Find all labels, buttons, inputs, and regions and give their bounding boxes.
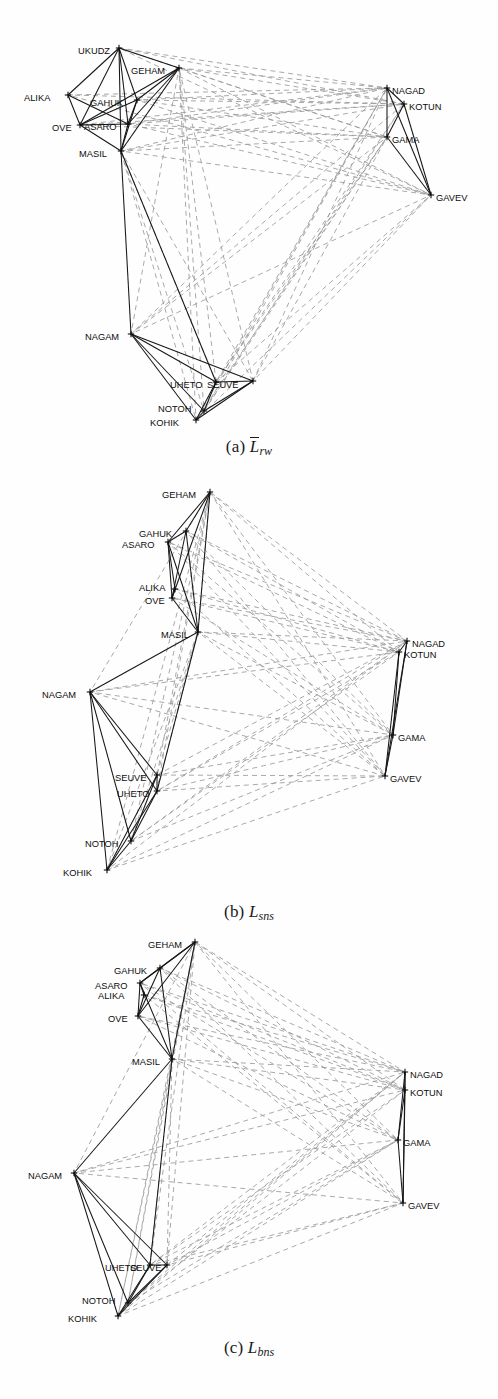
negative-edge — [210, 492, 399, 652]
positive-edge — [131, 334, 204, 411]
negative-edge — [150, 1203, 403, 1265]
node-label: NAGAD — [410, 1070, 443, 1080]
negative-edge — [172, 1059, 405, 1072]
caption-a-symbol: L — [250, 436, 260, 457]
negative-edge — [118, 1140, 398, 1316]
node-label: UHETO — [170, 380, 202, 390]
negative-edge — [74, 1090, 405, 1173]
graph-node[interactable] — [183, 528, 189, 534]
negative-edge — [253, 137, 387, 381]
negative-edge — [144, 995, 403, 1203]
negative-edge — [90, 652, 399, 692]
negative-edge — [150, 942, 195, 1265]
graph-node[interactable] — [77, 122, 83, 128]
panel-a: UKUDZGEHAMALIKAGAHUKOVEASAROMASILNAGAMUH… — [0, 0, 498, 470]
positive-edge — [157, 632, 198, 791]
negative-edge — [137, 100, 404, 104]
node-label: GAVEV — [408, 1201, 440, 1211]
node-label: OVE — [145, 596, 165, 606]
negative-edge — [157, 641, 407, 775]
graph-node[interactable] — [172, 586, 178, 592]
node-label: ALIKA — [139, 583, 166, 593]
negative-edge — [204, 104, 404, 411]
node-label: ASARO — [95, 981, 128, 991]
negative-edge — [175, 589, 385, 776]
node-label: NAGAM — [85, 332, 119, 342]
graph-node[interactable] — [154, 788, 160, 794]
negative-edge — [121, 104, 404, 151]
negative-edge — [172, 598, 399, 652]
negative-edge — [179, 68, 216, 382]
positive-edge — [121, 124, 128, 151]
negative-edge — [128, 1140, 398, 1303]
node-label: GAMA — [403, 1138, 431, 1148]
panel-b: GEHAMGAHUKASAROALIKAOVEMASILNAGAMSEUVEUH… — [0, 470, 498, 940]
node-label: ASARO — [122, 540, 155, 550]
negative-edge — [140, 983, 405, 1072]
figure-container: UKUDZGEHAMALIKAGAHUKOVEASAROMASILNAGAMUH… — [0, 0, 498, 1399]
positive-edge — [385, 641, 407, 776]
negative-edge — [167, 1072, 405, 1265]
node-label: ASARO — [84, 122, 117, 132]
positive-edge — [172, 942, 195, 1059]
negative-edge — [198, 632, 407, 641]
node-label: KOHIK — [63, 868, 93, 878]
node-label: NAGAM — [28, 1171, 62, 1181]
graph-node[interactable] — [118, 148, 124, 154]
negative-edge — [131, 735, 393, 841]
negative-edge — [150, 1140, 398, 1265]
positive-edge — [398, 1140, 403, 1203]
negative-edge — [168, 542, 393, 735]
negative-edge — [90, 692, 393, 735]
negative-edge — [107, 632, 198, 870]
negative-edge — [128, 1090, 405, 1303]
positive-edge — [168, 542, 172, 598]
caption-b-label: (b) — [224, 902, 244, 921]
panel-b-graph: GEHAMGAHUKASAROALIKAOVEMASILNAGAMSEUVEUH… — [0, 470, 498, 910]
negative-edge — [150, 1090, 405, 1265]
positive-edge — [387, 137, 431, 195]
negative-edge — [128, 124, 387, 137]
positive-edge — [168, 542, 175, 589]
positive-edge — [90, 692, 157, 775]
node-label: UHETO — [117, 789, 149, 799]
panel-c-graph: GEHAMGAHUKASAROALIKAOVEMASILNAGAMUHETOSE… — [0, 930, 498, 1340]
node-label: KOHIK — [150, 418, 180, 428]
negative-edge — [128, 124, 431, 195]
node-label: NAGAD — [412, 639, 445, 649]
negative-edge — [157, 735, 393, 775]
negative-edge — [186, 531, 407, 641]
node-label: GAHUK — [114, 966, 148, 976]
negative-edge — [131, 137, 387, 334]
node-label: KOTUN — [409, 102, 442, 112]
caption-a-subscript: rw — [259, 444, 272, 458]
caption-c-subscript: bns — [257, 1345, 274, 1359]
negative-edge — [198, 632, 393, 735]
negative-edge — [140, 983, 403, 1203]
node-label: GAMA — [398, 733, 426, 743]
node-label: GAVEV — [390, 774, 422, 784]
node-label: GEHAM — [131, 66, 165, 76]
node-label: MASIL — [79, 149, 107, 159]
negative-edge — [195, 942, 405, 1072]
negative-edge — [131, 68, 179, 334]
positive-edge — [131, 334, 216, 382]
node-label: NAGAM — [42, 690, 76, 700]
caption-c-symbol: L — [248, 1338, 258, 1357]
positive-edge — [172, 492, 210, 598]
negative-edge — [157, 632, 198, 775]
negative-edge — [172, 1059, 398, 1140]
positive-edge — [90, 692, 131, 841]
negative-edge — [186, 531, 385, 776]
node-label: MASIL — [132, 1057, 160, 1067]
negative-edge — [131, 88, 387, 334]
positive-edge — [404, 104, 431, 195]
negative-edge — [157, 775, 385, 776]
positive-edge — [74, 1059, 172, 1173]
panel-c: GEHAMGAHUKASAROALIKAOVEMASILNAGAMUHETOSE… — [0, 930, 498, 1399]
node-label: OVE — [108, 1014, 128, 1024]
graph-node[interactable] — [250, 378, 256, 384]
negative-edge — [172, 1059, 405, 1090]
negative-edge — [168, 542, 407, 641]
negative-edge — [140, 983, 405, 1090]
